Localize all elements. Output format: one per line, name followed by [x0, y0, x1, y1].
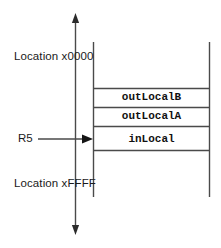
register-label-r5: R5	[18, 132, 33, 144]
stack-cell-label-inlocal: inLocal	[93, 133, 210, 145]
address-label-bottom: Location xFFFF	[14, 177, 96, 189]
stack-cell-label-outlocala: outLocalA	[93, 110, 210, 122]
address-label-top: Location x0000	[14, 50, 93, 62]
stack-diagram: Location x0000 Location xFFFF R5 outLoca…	[0, 0, 221, 248]
stack-cell-label-outlocalb: outLocalB	[93, 91, 210, 103]
diagram-labels: Location x0000 Location xFFFF R5 outLoca…	[0, 0, 221, 248]
